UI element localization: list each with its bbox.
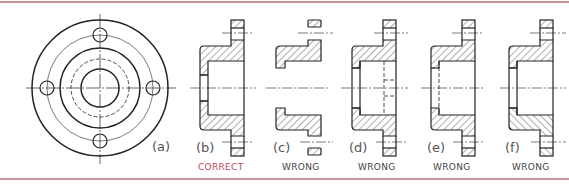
drawing-canvas: (a) (b) CORRECT [0,0,569,187]
flange-tip-top [383,20,396,28]
view-f-section [500,20,566,156]
flange-tip-top [540,20,553,28]
view-b-section [190,20,256,156]
flange-tip-bottom [231,148,244,156]
upper-section [509,40,553,68]
lower-section [200,101,244,136]
view-label-c: (c) [273,140,290,155]
view-label-b: (b) [196,140,214,155]
lower-section [276,108,321,136]
flange-tip-top [308,20,321,27]
upper-section [431,40,475,68]
flange-tip-bottom [383,148,396,156]
lower-section [352,108,396,136]
view-label-e: (e) [427,140,445,155]
caption-wrong-f: WRONG [512,162,549,172]
view-c-section [266,20,333,155]
view-label-f: (f) [505,140,520,155]
upper-section [352,40,396,68]
lower-section-wrong-hatch [509,108,553,136]
view-d-section [341,20,408,156]
flange-tip-bottom [308,148,321,155]
lower-section [431,108,475,136]
upper-section [276,40,321,68]
view-label-d: (d) [349,140,367,155]
view-e-section [421,20,484,156]
caption-correct: CORRECT [198,162,244,172]
bottom-border-rule [0,178,569,180]
flange-section-figure: (a) (b) CORRECT [0,0,569,187]
flange-tip-top [462,20,475,28]
caption-wrong-e: WRONG [433,162,470,172]
flange-tip-bottom [462,148,475,156]
flange-tip-bottom [540,148,553,156]
caption-wrong-d: WRONG [358,162,395,172]
caption-wrong-c: WRONG [282,162,319,172]
upper-section [200,40,244,75]
flange-tip-top [231,20,244,28]
top-border-rule [0,1,569,3]
view-label-a: (a) [152,139,170,154]
